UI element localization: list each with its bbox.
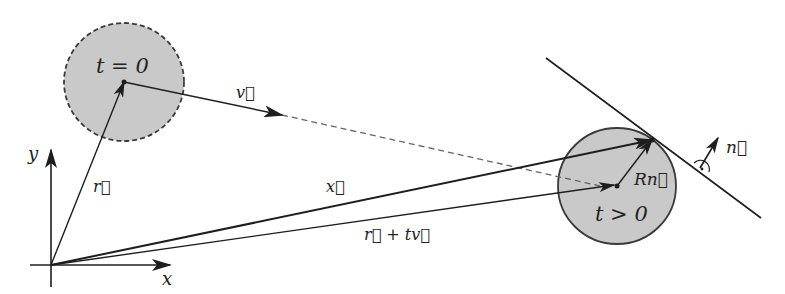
- y-axis-label: y: [27, 143, 39, 164]
- right-angle-dot: [701, 168, 704, 171]
- center-dot-initial: [122, 80, 127, 85]
- center-dot-later: [615, 184, 620, 189]
- vector-n-label: n⃗: [726, 137, 747, 157]
- sphere-plane-diagram: t = 0 t > 0 v⃗ r⃗ x⃗ r⃗ + tv⃗ Rn⃗ n⃗ x y: [0, 0, 785, 294]
- vector-Rn-label: Rn⃗: [633, 169, 668, 189]
- sphere-later-label: t > 0: [595, 202, 648, 226]
- vector-v-label: v⃗: [236, 83, 255, 102]
- contact-point-dot: [650, 138, 655, 143]
- velocity-trajectory-dashed: [282, 115, 600, 186]
- diagram-svg: t = 0 t > 0 v⃗ r⃗ x⃗ r⃗ + tv⃗ Rn⃗ n⃗ x y: [0, 0, 785, 294]
- vector-x-label: x⃗: [326, 177, 345, 196]
- sphere-initial-label: t = 0: [96, 54, 149, 78]
- x-axis-label: x: [162, 268, 172, 289]
- vector-r-label: r⃗: [93, 177, 110, 196]
- vector-r-plus-tv-label: r⃗ + tv⃗: [364, 225, 430, 244]
- vector-n: [700, 138, 718, 168]
- vector-r-plus-tv: [51, 185, 614, 265]
